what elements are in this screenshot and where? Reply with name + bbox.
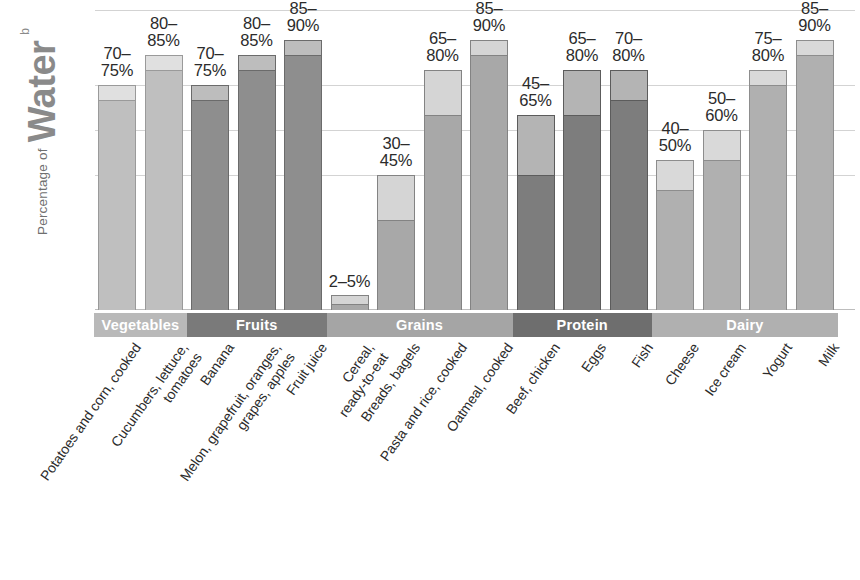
bar-lower-segment xyxy=(377,220,415,310)
x-axis-labels: Potatoes and corn, cookedCucumbers, lett… xyxy=(0,340,860,580)
x-axis-label: Milk xyxy=(814,340,842,370)
bar-lower-segment xyxy=(517,175,555,310)
water-percentage-bar-chart: Percentage of Water b 70–75%80–85%70–75%… xyxy=(0,0,860,580)
bar-lower-segment xyxy=(284,55,322,310)
bar-value-label: 80–85% xyxy=(230,15,284,49)
bar-cucumbers-lettuce-tomatoes[interactable] xyxy=(145,55,183,310)
x-axis-label: Banana xyxy=(197,340,238,389)
bar-value-label-line: 65– xyxy=(555,30,609,47)
food-group-fruits[interactable]: Fruits xyxy=(187,313,327,337)
bar-value-label: 70–75% xyxy=(90,45,144,79)
bar-value-label-line: 80% xyxy=(741,47,795,64)
bar-fish[interactable] xyxy=(610,70,648,310)
bar-fruit-juice[interactable] xyxy=(284,40,322,310)
bar-lower-segment xyxy=(238,70,276,310)
bar-oatmeal-cooked[interactable] xyxy=(470,40,508,310)
bar-value-label-line: 65% xyxy=(509,92,563,109)
bar-value-label: 80–85% xyxy=(137,15,191,49)
bar-value-label-line: 85– xyxy=(788,0,842,17)
bar-lower-segment xyxy=(145,70,183,310)
y-axis-title-main: Water xyxy=(23,41,61,143)
bar-lower-segment xyxy=(563,115,601,310)
bar-value-label: 30–45% xyxy=(369,135,423,169)
bar-value-label: 50–60% xyxy=(695,90,749,124)
x-axis-label-line: Yogurt xyxy=(759,340,795,382)
bar-lower-segment xyxy=(331,304,369,310)
bar-beef-chicken[interactable] xyxy=(517,115,555,310)
bar-value-label-line: 80% xyxy=(416,47,470,64)
x-axis-label-line: Milk xyxy=(814,340,842,370)
food-group-protein[interactable]: Protein xyxy=(513,313,653,337)
bar-value-label-line: 70– xyxy=(90,45,144,62)
bar-pasta-and-rice-cooked[interactable] xyxy=(424,70,462,310)
bar-value-label: 70–75% xyxy=(183,45,237,79)
bar-value-label-line: 30– xyxy=(369,135,423,152)
food-group-grains[interactable]: Grains xyxy=(327,313,513,337)
bar-ice-cream[interactable] xyxy=(703,130,741,310)
bar-value-label-line: 75– xyxy=(741,30,795,47)
bar-yogurt[interactable] xyxy=(749,70,787,310)
bar-milk[interactable] xyxy=(796,40,834,310)
bar-value-label-line: 70– xyxy=(183,45,237,62)
bar-value-label: 65–80% xyxy=(416,30,470,64)
bar-value-label-line: 50– xyxy=(695,90,749,107)
bar-value-label-line: 90% xyxy=(462,17,516,34)
bar-value-label-line: 80– xyxy=(137,15,191,32)
bar-value-label-line: 85– xyxy=(462,0,516,17)
bar-value-label: 65–80% xyxy=(555,30,609,64)
y-axis-title: Percentage of Water b xyxy=(12,28,72,348)
bar-lower-segment xyxy=(796,55,834,310)
x-axis-label-line: Banana xyxy=(197,340,238,389)
bar-lower-segment xyxy=(470,55,508,310)
bar-value-label-line: 45% xyxy=(369,152,423,169)
bar-value-label: 2–5% xyxy=(323,273,377,290)
bar-lower-segment xyxy=(749,85,787,310)
bar-value-label-line: 85% xyxy=(137,32,191,49)
food-group-vegetables[interactable]: Vegetables xyxy=(94,313,187,337)
plot-area: 70–75%80–85%70–75%80–85%85–90%2–5%30–45%… xyxy=(95,10,855,310)
x-axis-label: Ice cream xyxy=(701,340,749,399)
bar-value-label-line: 50% xyxy=(648,137,702,154)
bar-value-label-line: 75% xyxy=(90,62,144,79)
bar-lower-segment xyxy=(191,100,229,310)
bar-value-label: 75–80% xyxy=(741,30,795,64)
bar-lower-segment xyxy=(98,100,136,310)
bar-potatoes-and-corn-cooked[interactable] xyxy=(98,85,136,310)
bar-value-label: 85–90% xyxy=(276,0,330,34)
bar-value-label-line: 70– xyxy=(602,30,656,47)
bar-value-label: 40–50% xyxy=(648,120,702,154)
bar-breads-bagels[interactable] xyxy=(377,175,415,310)
x-axis-label-line: Cheese xyxy=(662,340,703,389)
bar-value-label: 85–90% xyxy=(462,0,516,34)
bar-eggs[interactable] xyxy=(563,70,601,310)
bar-value-label-line: 60% xyxy=(695,107,749,124)
x-axis-label: Fish xyxy=(628,340,656,371)
x-axis-label-line: Fish xyxy=(628,340,656,371)
food-group-band: VegetablesFruitsGrainsProteinDairy xyxy=(95,313,855,337)
bar-lower-segment xyxy=(703,160,741,310)
bar-value-label-line: 85% xyxy=(230,32,284,49)
bar-value-label-line: 90% xyxy=(788,17,842,34)
bar-cheese[interactable] xyxy=(656,160,694,310)
bar-value-label: 70–80% xyxy=(602,30,656,64)
bar-value-label-line: 65– xyxy=(416,30,470,47)
bar-lower-segment xyxy=(656,190,694,310)
bar-banana[interactable] xyxy=(191,85,229,310)
bar-value-label-line: 2–5% xyxy=(323,273,377,290)
bar-lower-segment xyxy=(610,100,648,310)
bar-value-label-line: 85– xyxy=(276,0,330,17)
bar-value-label-line: 45– xyxy=(509,75,563,92)
gridline xyxy=(95,10,855,11)
bar-value-label-line: 75% xyxy=(183,62,237,79)
x-axis-label: Cheese xyxy=(662,340,703,389)
x-axis-label-line: Eggs xyxy=(578,340,610,375)
bar-value-label-line: 80– xyxy=(230,15,284,32)
bar-value-label-line: 80% xyxy=(602,47,656,64)
food-group-dairy[interactable]: Dairy xyxy=(652,313,838,337)
x-axis-label: Yogurt xyxy=(759,340,795,382)
bar-value-label-line: 90% xyxy=(276,17,330,34)
bar-melon-grapefruit-oranges-grapes-apples[interactable] xyxy=(238,55,276,310)
x-axis-label: Eggs xyxy=(578,340,610,375)
y-axis-title-prefix: Percentage of xyxy=(35,148,50,235)
bar-cereal-ready-to-eat[interactable] xyxy=(331,295,369,310)
